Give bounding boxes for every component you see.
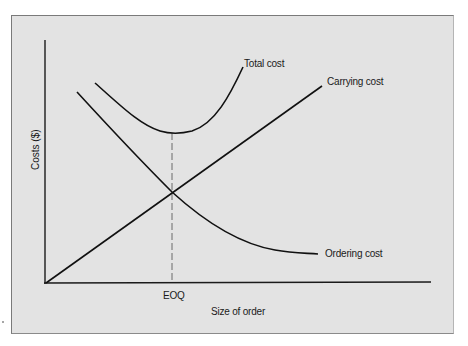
ordering-cost-curve bbox=[77, 92, 318, 254]
eoq-tick-label: EOQ bbox=[163, 290, 185, 301]
x-axis-label: Size of order bbox=[211, 306, 265, 317]
total-cost-curve bbox=[95, 67, 243, 133]
x-axis bbox=[44, 282, 431, 283]
ordering-cost-label: Ordering cost bbox=[325, 248, 382, 259]
scan-artifact bbox=[2, 321, 4, 323]
carrying-cost-line bbox=[46, 86, 322, 283]
total-cost-label: Total cost bbox=[244, 58, 284, 69]
carrying-cost-label: Carrying cost bbox=[327, 76, 383, 87]
cost-chart-plot bbox=[0, 0, 468, 346]
y-axis-label: Costs ($) bbox=[30, 129, 41, 170]
